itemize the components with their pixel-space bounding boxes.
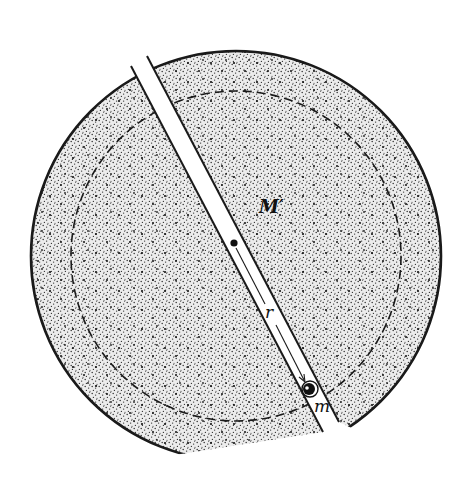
center-dot — [230, 239, 237, 246]
test-mass — [302, 381, 318, 397]
label-test-mass: m — [314, 396, 330, 416]
label-radius: r — [265, 302, 274, 322]
sphere-tunnel-diagram: M′ r m — [0, 0, 465, 482]
label-enclosed-mass: M′ — [258, 196, 284, 217]
